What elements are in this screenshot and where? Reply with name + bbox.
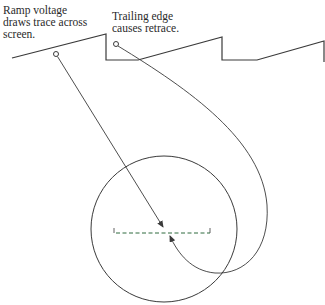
ramp-pointer-arrow xyxy=(58,57,164,228)
crt-sweep-diagram xyxy=(0,0,325,305)
trailing-marker-circle xyxy=(114,42,119,47)
ramp-marker-circle xyxy=(54,52,59,57)
